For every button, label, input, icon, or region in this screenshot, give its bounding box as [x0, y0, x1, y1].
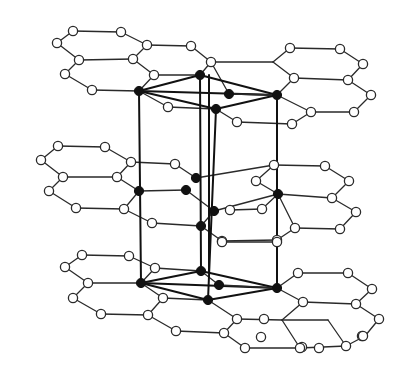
bond-line: [139, 190, 186, 191]
graphite-lattice-diagram: [0, 0, 415, 384]
open-atom-icon: [232, 117, 241, 126]
open-atom-icon: [232, 314, 241, 323]
open-atom-icon: [217, 237, 226, 246]
open-atom-icon: [53, 141, 62, 150]
bond-line: [79, 59, 133, 60]
filled-atom-icon: [272, 90, 281, 99]
filled-atom-icon: [196, 221, 205, 230]
open-atom-icon: [60, 69, 69, 78]
open-atom-icon: [225, 205, 234, 214]
open-atom-icon: [149, 70, 158, 79]
bond-line: [92, 90, 139, 91]
open-atom-icon: [44, 186, 53, 195]
open-atom-icon: [119, 204, 128, 213]
bond-line: [176, 331, 224, 333]
open-atom-icon: [71, 203, 80, 212]
bond-line: [152, 223, 201, 226]
open-atom-icon: [143, 310, 152, 319]
filled-atom-icon: [209, 206, 218, 215]
filled-atom-icon: [272, 283, 281, 292]
open-atom-icon: [349, 107, 358, 116]
open-atom-icon: [351, 299, 360, 308]
open-atom-icon: [320, 161, 329, 170]
bond-line: [294, 78, 348, 80]
filled-atom-icon: [181, 185, 190, 194]
open-atom-icon: [335, 44, 344, 53]
filled-atom-icon: [273, 189, 282, 198]
open-atom-icon: [206, 57, 215, 66]
open-atom-icon: [358, 331, 367, 340]
open-atom-icon: [124, 251, 133, 260]
open-atom-icon: [126, 157, 135, 166]
open-atom-icon: [240, 343, 249, 352]
bond-line: [278, 194, 295, 228]
unit-cell-edge: [139, 75, 200, 91]
open-atom-icon: [327, 193, 336, 202]
open-atom-icon: [96, 309, 105, 318]
open-atom-icon: [259, 314, 268, 323]
filled-atom-icon: [214, 280, 223, 289]
bond-line: [82, 255, 129, 256]
bond-line: [237, 122, 292, 124]
open-atom-icon: [36, 155, 45, 164]
filled-atom-icon: [196, 266, 205, 275]
open-atom-icon: [314, 343, 323, 352]
open-atom-icon: [343, 75, 352, 84]
open-atom-icon: [83, 278, 92, 287]
bond-line: [222, 240, 277, 241]
filled-atom-icon: [136, 278, 145, 287]
open-atom-icon: [147, 218, 156, 227]
open-atom-icon: [287, 119, 296, 128]
open-atom-icon: [87, 85, 96, 94]
filled-atom-icon: [134, 86, 143, 95]
open-atom-icon: [289, 73, 298, 82]
open-atom-icon: [58, 172, 67, 181]
filled-atom-icon: [203, 295, 212, 304]
bond-line: [155, 268, 201, 271]
open-atom-icon: [335, 224, 344, 233]
bond-line: [131, 162, 175, 164]
bond-line: [303, 302, 356, 304]
open-atom-icon: [77, 250, 86, 259]
unit-cell-vertical: [200, 75, 201, 271]
bond-line: [278, 194, 332, 198]
open-atom-icon: [116, 27, 125, 36]
open-atom-icon: [272, 237, 281, 246]
open-atom-icon: [358, 59, 367, 68]
open-atom-icon: [142, 40, 151, 49]
open-atom-icon: [290, 223, 299, 232]
bond-line: [295, 228, 340, 229]
open-atom-icon: [344, 176, 353, 185]
open-atom-icon: [150, 263, 159, 272]
open-atom-icon: [128, 54, 137, 63]
open-atom-icon: [285, 43, 294, 52]
open-atom-icon: [52, 38, 61, 47]
open-atom-icon: [171, 326, 180, 335]
open-atom-icon: [256, 332, 265, 341]
bond-line: [58, 146, 105, 147]
open-atom-icon: [251, 176, 260, 185]
open-atom-icon: [68, 293, 77, 302]
open-atom-icon: [366, 90, 375, 99]
filled-atom-icon: [134, 186, 143, 195]
open-atom-icon: [170, 159, 179, 168]
open-atom-icon: [341, 341, 350, 350]
open-atom-icon: [298, 297, 307, 306]
open-atom-icon: [257, 204, 266, 213]
open-atom-icon: [100, 142, 109, 151]
open-atom-icon: [112, 172, 121, 181]
open-atom-icon: [60, 262, 69, 271]
bond-line: [73, 31, 121, 32]
bond-line: [76, 208, 124, 209]
filled-atom-icon: [224, 89, 233, 98]
open-atom-icon: [269, 160, 278, 169]
open-atom-icon: [367, 284, 376, 293]
open-atom-icon: [374, 314, 383, 323]
open-atom-icon: [293, 268, 302, 277]
open-atom-icon: [219, 328, 228, 337]
open-atom-icon: [186, 41, 195, 50]
open-atom-icon: [74, 55, 83, 64]
bond-line: [277, 95, 311, 112]
open-atom-icon: [163, 102, 172, 111]
open-atom-icon: [306, 107, 315, 116]
